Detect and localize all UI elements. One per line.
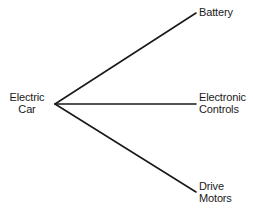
node-electronic-controls: Electronic Controls [199,92,246,115]
node-electric-car-line-1: Electric [4,92,50,104]
node-electronic-controls-line-1: Electronic [199,92,246,104]
node-battery: Battery [199,7,233,19]
node-electric-car-line-2: Car [4,104,50,116]
edge-electric-car-to-battery [55,13,196,104]
node-drive-motors-line-1: Drive [199,181,232,193]
node-drive-motors-line-2: Motors [199,193,232,205]
node-electric-car: Electric Car [4,92,50,115]
electric-car-diagram: Electric Car Battery Electronic Controls… [0,0,253,211]
node-electronic-controls-line-2: Controls [199,104,246,116]
node-battery-line-1: Battery [199,7,233,19]
edge-electric-car-to-drive-motors [55,104,196,192]
node-drive-motors: Drive Motors [199,181,232,204]
